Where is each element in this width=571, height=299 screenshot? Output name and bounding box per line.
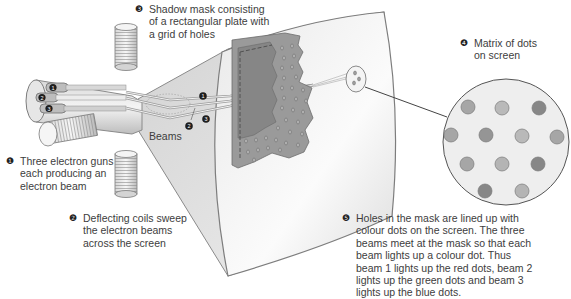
label-holes-explanation: ❺ Holes in the mask are lined up with co…: [356, 212, 532, 299]
label-shadow-mask: ❸ Shadow mask consisting of a rectangula…: [149, 3, 269, 40]
number-badge-1: ❶: [6, 155, 14, 167]
label-electron-guns: ❶ Three electron guns each producing an …: [20, 155, 113, 192]
number-badge-3: ❸: [135, 3, 143, 15]
number-badge-2: ❷: [69, 212, 77, 224]
number-badge-4: ❹: [460, 37, 468, 49]
beam-badge-3: 3: [202, 115, 210, 123]
gun-number-1: 1: [51, 85, 54, 91]
electron-guns: 1 2 3: [36, 83, 126, 113]
crt-tube: [26, 12, 396, 276]
label-text: Matrix of dots on screen: [474, 37, 537, 62]
beams-label: Beams: [149, 130, 182, 142]
svg-text:2: 2: [187, 123, 190, 129]
shadow-mask: [232, 33, 313, 168]
label-matrix-of-dots: ❹ Matrix of dots on screen: [474, 37, 537, 62]
mask-cutaway: [238, 42, 277, 138]
number-badge-5: ❺: [342, 212, 350, 224]
beam-badge-1: 1: [199, 92, 207, 100]
label-text: Shadow mask consisting of a rectangular …: [149, 3, 269, 40]
svg-text:3: 3: [204, 116, 207, 122]
beam-badge-2: 2: [185, 122, 193, 130]
gun-number-2: 2: [40, 95, 43, 101]
label-text: Deflecting coils sweep the electron beam…: [83, 212, 187, 249]
label-text: Holes in the mask are lined up with colo…: [356, 212, 532, 299]
gun-number-3: 3: [47, 106, 50, 112]
svg-text:1: 1: [201, 93, 204, 99]
matrix-of-dots: [443, 79, 569, 205]
coil-top: [115, 24, 137, 71]
label-deflecting-coils: ❷ Deflecting coils sweep the electron be…: [83, 212, 187, 249]
coil-bottom: [115, 151, 137, 198]
label-text: Three electron guns each producing an el…: [20, 155, 113, 192]
